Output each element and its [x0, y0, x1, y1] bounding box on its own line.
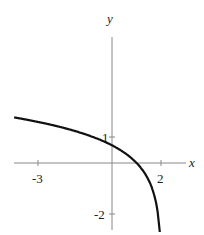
x-tick-label-2: 2 [157, 171, 164, 186]
y-tick-label-neg2: -2 [94, 207, 105, 222]
function-graph: y x -3 2 1 -2 [0, 0, 204, 235]
y-axis-label: y [105, 11, 113, 26]
x-axis-label: x [188, 155, 195, 170]
x-tick-label-neg3: -3 [32, 171, 43, 186]
